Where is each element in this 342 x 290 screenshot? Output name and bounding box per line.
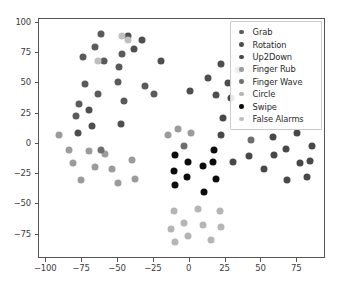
data-point [124,36,131,43]
data-point [175,126,182,133]
data-point [308,143,315,150]
data-point [199,222,206,229]
data-point [94,58,101,65]
legend-item-label: Swipe [253,102,277,112]
data-point [124,32,131,39]
data-point [195,206,202,213]
data-point [89,122,96,129]
data-point [119,32,126,39]
data-point [102,150,109,157]
data-point [284,177,291,184]
data-point [271,151,278,158]
y-tick-mark [35,113,39,114]
legend-marker-icon [239,117,244,122]
x-tick-label: 50 [255,263,265,273]
data-point [282,145,289,152]
y-tick-label: 25 [21,108,31,118]
legend-item-up2down: Up2Down [235,51,316,63]
data-point [216,207,223,214]
data-point [100,58,107,65]
y-tick-label: −50 [14,198,31,208]
legend-marker-icon [239,92,244,97]
data-point [218,224,225,231]
data-point [116,64,123,71]
data-point [172,239,179,246]
x-tick-label: 75 [291,263,301,273]
data-point [86,148,93,155]
data-point [76,100,83,107]
data-point [185,232,192,239]
data-point [70,160,77,167]
x-tick-mark [45,258,46,262]
x-tick-label: 25 [219,263,229,273]
data-point [297,160,304,167]
legend-marker-icon [239,67,244,72]
data-point [188,129,195,136]
data-point [117,121,124,128]
x-tick-label: −75 [72,263,89,273]
data-point [56,132,63,139]
data-point [66,146,73,153]
legend-item-label: Grab [253,27,273,37]
data-point [183,173,190,180]
data-point [205,75,212,82]
data-point [294,129,301,136]
legend-marker-icon [239,104,244,109]
data-point [245,152,252,159]
chart-legend: GrabRotationUp2DownFinger RubFinger Wave… [230,21,322,130]
x-tick-mark [189,258,190,262]
data-point [168,225,175,232]
data-point [269,133,276,140]
data-point [74,129,81,136]
data-point [172,151,179,158]
x-tick-label: −50 [108,263,125,273]
data-point [180,143,187,150]
data-point [120,98,127,105]
x-tick-label: −25 [144,263,161,273]
legend-marker-icon [239,79,244,84]
y-tick-mark [35,203,39,204]
legend-marker-icon [239,30,244,35]
x-tick-mark [225,258,226,262]
data-point [114,79,121,86]
data-point [165,132,172,139]
data-point [304,173,311,180]
legend-item-label: Finger Rub [253,64,296,74]
y-tick-mark [35,234,39,235]
data-point [218,60,225,67]
legend-item-swipe: Swipe [235,100,316,112]
data-point [170,207,177,214]
data-point [201,189,208,196]
data-point [129,156,136,163]
y-tick-mark [35,52,39,53]
x-tick-mark [153,258,154,262]
data-point [94,91,101,98]
data-point [142,82,149,89]
data-point [114,179,121,186]
data-point [119,51,126,58]
y-tick-mark [35,82,39,83]
data-point [170,167,177,174]
y-tick-label: −75 [14,229,31,239]
data-point [219,115,226,122]
y-tick-mark [35,173,39,174]
x-tick-mark [81,258,82,262]
data-point [97,146,104,153]
y-tick-label: 50 [21,77,31,87]
data-point [150,91,157,98]
data-point [185,159,192,166]
data-point [80,53,87,60]
y-tick-label: −25 [14,168,31,178]
x-tick-label: 0 [186,263,191,273]
y-tick-label: 100 [15,17,31,27]
data-point [91,43,98,50]
legend-item-grab: Grab [235,26,316,38]
data-point [97,30,104,37]
data-point [139,36,146,43]
data-point [132,176,139,183]
legend-item-finger-rub: Finger Rub [235,63,316,75]
legend-marker-icon [239,42,244,47]
x-tick-mark [260,258,261,262]
x-tick-mark [296,258,297,262]
y-tick-mark [35,143,39,144]
